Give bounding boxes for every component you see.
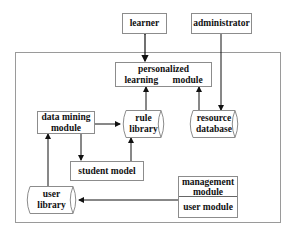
- user-library-node: user library: [24, 186, 79, 214]
- personalized-learning-module-label: personalized learning module: [119, 64, 208, 86]
- user-library-label-line1: user: [43, 189, 60, 200]
- data-mining-module-label-line1: data mining: [42, 112, 91, 123]
- user-library-label-line2: library: [37, 200, 66, 211]
- learner-label: learner: [130, 18, 160, 29]
- user-module-label: user module: [183, 202, 233, 212]
- resource-database-label-line2: database: [196, 124, 232, 135]
- learner-node: learner: [122, 13, 167, 34]
- student-model-node: student model: [70, 161, 144, 181]
- management-module-node: management module: [179, 177, 237, 197]
- user-module-node: user module: [179, 197, 237, 217]
- student-model-label: student model: [78, 166, 135, 177]
- administrator-label: administrator: [193, 18, 249, 29]
- management-module-label-line1: management: [182, 177, 234, 187]
- management-user-module-stack: management module user module: [178, 176, 238, 218]
- management-module-label-line2: module: [193, 187, 223, 197]
- resource-database-label-line1: resource: [197, 113, 231, 124]
- rule-library-label-line1: rule: [135, 113, 151, 124]
- resource-database-node: resource database: [187, 110, 241, 138]
- administrator-node: administrator: [191, 13, 252, 34]
- data-mining-module-label-line2: module: [51, 123, 81, 134]
- rule-library-node: rule library: [120, 110, 167, 138]
- personalized-learning-module-node: personalized learning module: [115, 62, 212, 87]
- rule-library-label-line2: library: [129, 124, 158, 135]
- data-mining-module-node: data mining module: [37, 111, 95, 134]
